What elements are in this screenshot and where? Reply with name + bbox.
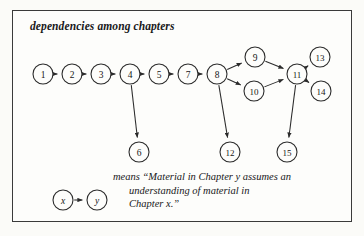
graph-node-7[interactable]: 7	[178, 64, 198, 84]
legend-label-y: y	[94, 196, 100, 206]
graph-node-14[interactable]: 14	[311, 81, 331, 101]
caption-line-3: Chapter x.”	[113, 197, 298, 211]
caption-line-1: means “Material in Chapter y assumes an	[113, 170, 298, 184]
node-label-10: 10	[250, 87, 260, 97]
graph-edge-11-to-15	[289, 85, 296, 137]
graph-node-9[interactable]: 9	[245, 47, 265, 67]
node-label-1: 1	[41, 70, 46, 80]
graph-nodes: 123457891011131461215	[33, 47, 331, 162]
node-label-6: 6	[137, 148, 142, 158]
legend-label-x: x	[60, 196, 66, 206]
graph-edge-11-to-14	[306, 80, 309, 82]
graph-node-11[interactable]: 11	[287, 64, 307, 84]
graph-node-6[interactable]: 6	[129, 142, 149, 162]
graph-node-12[interactable]: 12	[220, 142, 240, 162]
graph-node-10[interactable]: 10	[244, 81, 264, 101]
node-label-2: 2	[70, 70, 75, 80]
graph-edge-8-to-10	[227, 79, 241, 85]
legend-node-x: x	[53, 190, 73, 210]
legend-node-y: y	[87, 190, 107, 210]
node-label-15: 15	[283, 148, 293, 158]
graph-edge-8-to-9	[227, 63, 241, 69]
graph-node-1[interactable]: 1	[33, 64, 53, 84]
graph-node-4[interactable]: 4	[120, 64, 140, 84]
figure-page: dependencies among chapters 123457891011…	[0, 0, 364, 236]
node-label-7: 7	[186, 70, 191, 80]
graph-node-5[interactable]: 5	[149, 64, 169, 84]
node-label-14: 14	[317, 87, 327, 97]
node-label-11: 11	[293, 70, 302, 80]
graph-edge-11-to-13	[306, 66, 308, 68]
caption-line-2: understanding of material in	[113, 184, 298, 198]
graph-edge-10-to-11	[264, 79, 283, 87]
node-label-4: 4	[128, 70, 133, 80]
graph-edge-9-to-11	[265, 61, 283, 68]
node-label-5: 5	[157, 70, 162, 80]
node-label-3: 3	[99, 70, 104, 80]
graph-node-3[interactable]: 3	[91, 64, 111, 84]
graph-node-15[interactable]: 15	[277, 142, 297, 162]
graph-edge-4-to-6	[131, 85, 137, 137]
graph-node-8[interactable]: 8	[207, 64, 227, 84]
node-label-8: 8	[215, 70, 220, 80]
graph-edge-8-to-12	[219, 85, 228, 138]
graph-node-2[interactable]: 2	[62, 64, 82, 84]
legend-graphic: xy	[53, 190, 107, 210]
node-label-12: 12	[226, 148, 235, 158]
graph-node-13[interactable]: 13	[310, 47, 330, 67]
node-label-9: 9	[253, 53, 258, 63]
node-label-13: 13	[316, 53, 326, 63]
figure-caption: means “Material in Chapter y assumes an …	[113, 170, 298, 211]
